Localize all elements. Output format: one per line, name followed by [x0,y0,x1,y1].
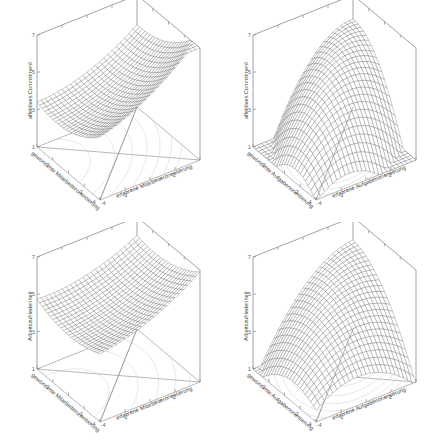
floor-contour [163,136,172,175]
y-axis-label: gewünschte Mitarbeiterorientierung [30,150,101,211]
z-tick-label: 1 [248,144,251,150]
z-tick-label: 7 [32,32,35,38]
surface-plot-4: 1357-22-22-4-4Arbeitszufriedenheitgewüns… [216,222,432,444]
floor-contour [149,120,160,180]
z-tick-label: 7 [248,32,251,38]
floor-contour [136,329,175,392]
z-tick [253,331,256,332]
z-tick [253,72,256,73]
z-tick-label: 7 [248,254,251,260]
z-tick-label: 1 [32,144,35,150]
z-tick-label: 7 [32,254,35,260]
z-tick [37,369,40,370]
surface-mesh [253,240,416,411]
z-axis-label: Arbeitszufriedenheit [243,291,249,341]
surface-plot-3-svg: 1357-22-22-4-4Arbeitszufriedenheitgewüns… [0,222,216,444]
z-tick [253,369,256,370]
surface-plot-1-svg: 1357-22-22-4-4affektives Commitmentgewün… [0,0,216,222]
z-tick [37,257,40,258]
plot-1-group: 1357-22-22-4-4affektives Commitmentgewün… [27,0,200,211]
corner-label: -4 [101,422,106,428]
plot-3-group: 1357-22-22-4-4Arbeitszufriedenheitgewüns… [27,222,200,433]
z-tick [253,257,256,258]
floor-contour [108,118,132,197]
surface-mesh [37,25,200,138]
z-tick-label: 1 [248,366,251,372]
surface-plot-2: 1357-22-22-4-4affektives Commitmentgewün… [216,0,432,222]
x-axis-label: erfahrene Mitarbeiterorientierung [115,385,193,421]
z-axis-label: affektives Commitment [243,62,249,119]
z-tick [253,294,256,295]
plot-2-group: 1357-22-22-4-4affektives Commitmentgewün… [243,0,416,209]
z-tick [37,72,40,73]
z-tick [37,294,40,295]
z-tick [37,109,40,110]
surface-plot-3: 1357-22-22-4-4Arbeitszufriedenheitgewüns… [0,222,216,444]
z-tick-label: 1 [32,366,35,372]
surface-plot-1: 1357-22-22-4-4affektives Commitmentgewün… [0,0,216,222]
y-axis-label: gewünschte Mitarbeiterorientierung [30,372,101,433]
z-axis-label: affektives Commitment [27,62,33,119]
floor-contour [89,348,139,410]
plot-4-group: 1357-22-22-4-4Arbeitszufriedenheitgewüns… [243,222,416,431]
z-tick [37,331,40,332]
corner-label: -4 [317,200,322,206]
z-tick [37,147,40,148]
surface-plot-2-svg: 1357-22-22-4-4affektives Commitmentgewün… [216,0,432,222]
z-tick [253,35,256,36]
z-tick [253,109,256,110]
surface-mesh [37,235,200,353]
z-tick [37,35,40,36]
z-tick [253,147,256,148]
corner-label: -4 [101,200,106,206]
floor-contour [126,112,148,188]
corner-label: -4 [317,422,322,428]
x-axis-label: erfahrene Aufgabenorientierung [331,386,406,421]
x-axis-label: erfahrene Mitarbeiterorientierung [115,163,193,199]
surface-plot-4-svg: 1357-22-22-4-4Arbeitszufriedenheitgewüns… [216,222,432,444]
z-axis-label: Arbeitszufriedenheit [27,291,33,341]
